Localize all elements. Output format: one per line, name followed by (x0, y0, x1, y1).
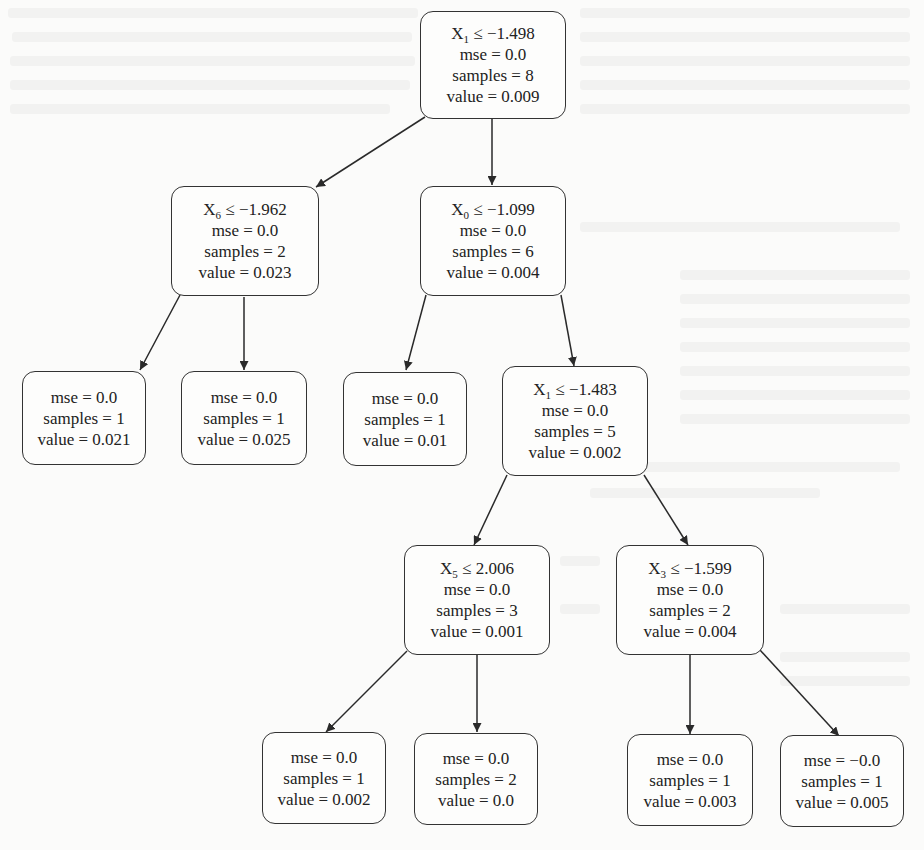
node-condition: X5 ≤ 2.006 (440, 558, 514, 579)
node-samples: samples = 6 (452, 241, 533, 262)
tree-node-n8: X3 ≤ −1.599 mse = 0.0 samples = 2 value … (616, 545, 764, 655)
edge-n8-n12 (760, 650, 839, 736)
tree-node-n10-leaf: mse = 0.0 samples = 2 value = 0.0 (414, 733, 538, 825)
node-samples: samples = 8 (452, 65, 533, 86)
node-value: value = 0.002 (528, 442, 621, 463)
edge-n2-n6 (561, 295, 574, 366)
node-mse: mse = 0.0 (291, 747, 358, 768)
tree-node-n1: X6 ≤ −1.962 mse = 0.0 samples = 2 value … (171, 186, 319, 296)
node-samples: samples = 1 (203, 408, 284, 429)
node-value: value = 0.021 (37, 429, 130, 450)
node-samples: samples = 1 (649, 770, 730, 791)
tree-node-n12-leaf: mse = −0.0 samples = 1 value = 0.005 (780, 735, 904, 827)
node-condition: X1 ≤ −1.483 (533, 379, 616, 400)
node-value: value = 0.001 (430, 621, 523, 642)
edge-n6-n8 (644, 475, 688, 545)
node-value: value = 0.003 (643, 791, 736, 812)
node-samples: samples = 1 (801, 771, 882, 792)
tree-node-n6: X1 ≤ −1.483 mse = 0.0 samples = 5 value … (502, 366, 648, 476)
node-mse: mse = 0.0 (542, 400, 609, 421)
node-samples: samples = 2 (204, 241, 285, 262)
edge-n7-n9 (326, 651, 407, 732)
node-mse: mse = −0.0 (804, 750, 880, 771)
tree-node-n2: X0 ≤ −1.099 mse = 0.0 samples = 6 value … (420, 186, 566, 296)
edge-n6-n7 (474, 475, 507, 545)
node-samples: samples = 1 (283, 768, 364, 789)
node-mse: mse = 0.0 (212, 220, 279, 241)
node-value: value = 0.025 (197, 429, 290, 450)
tree-node-n5-leaf: mse = 0.0 samples = 1 value = 0.01 (343, 372, 467, 466)
node-samples: samples = 1 (43, 408, 124, 429)
node-samples: samples = 5 (534, 421, 615, 442)
node-value: value = 0.004 (446, 262, 539, 283)
node-value: value = 0.005 (795, 792, 888, 813)
node-condition: X1 ≤ −1.498 (451, 23, 534, 44)
node-mse: mse = 0.0 (657, 579, 724, 600)
node-mse: mse = 0.0 (444, 579, 511, 600)
tree-node-n9-leaf: mse = 0.0 samples = 1 value = 0.002 (262, 732, 386, 824)
node-samples: samples = 3 (436, 600, 517, 621)
node-condition: X3 ≤ −1.599 (648, 558, 731, 579)
edge-n1-n3 (140, 295, 180, 370)
node-value: value = 0.002 (277, 789, 370, 810)
node-value: value = 0.004 (643, 621, 736, 642)
node-value: value = 0.0 (438, 790, 514, 811)
node-condition: X0 ≤ −1.099 (451, 199, 534, 220)
node-value: value = 0.009 (446, 86, 539, 107)
node-value: value = 0.01 (363, 430, 448, 451)
edge-n0-n1 (316, 117, 425, 187)
tree-node-n4-leaf: mse = 0.0 samples = 1 value = 0.025 (181, 371, 307, 465)
node-mse: mse = 0.0 (372, 388, 439, 409)
node-mse: mse = 0.0 (211, 387, 278, 408)
node-samples: samples = 2 (649, 600, 730, 621)
node-mse: mse = 0.0 (443, 748, 510, 769)
tree-node-root: X1 ≤ −1.498 mse = 0.0 samples = 8 value … (420, 11, 566, 119)
node-mse: mse = 0.0 (51, 387, 118, 408)
node-mse: mse = 0.0 (657, 749, 724, 770)
tree-node-n7: X5 ≤ 2.006 mse = 0.0 samples = 3 value =… (404, 545, 550, 655)
node-samples: samples = 2 (435, 769, 516, 790)
node-mse: mse = 0.0 (460, 220, 527, 241)
node-samples: samples = 1 (364, 409, 445, 430)
node-value: value = 0.023 (198, 262, 291, 283)
tree-node-n11-leaf: mse = 0.0 samples = 1 value = 0.003 (627, 734, 753, 826)
node-condition: X6 ≤ −1.962 (203, 199, 286, 220)
tree-node-n3-leaf: mse = 0.0 samples = 1 value = 0.021 (22, 371, 146, 465)
node-mse: mse = 0.0 (460, 44, 527, 65)
edge-n2-n5 (406, 295, 426, 370)
